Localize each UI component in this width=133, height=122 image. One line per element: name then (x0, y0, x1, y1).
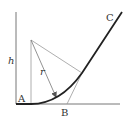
transition-curve-diagram: h A B C r (0, 0, 133, 122)
label-a: A (17, 93, 26, 104)
transition-curve (16, 12, 122, 104)
label-c: C (106, 12, 114, 23)
label-b: B (61, 107, 68, 118)
label-h: h (8, 55, 14, 66)
